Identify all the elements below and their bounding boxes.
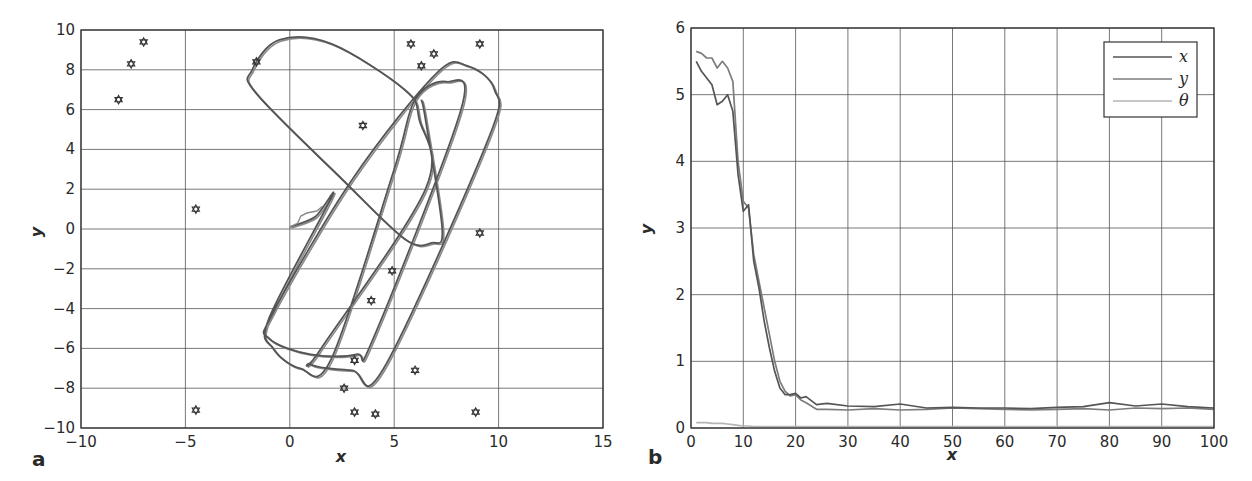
legend: x y θ bbox=[1104, 42, 1197, 117]
landmark-star-icon bbox=[192, 406, 199, 414]
landmark-star-icon bbox=[359, 121, 366, 129]
x-tick-label: 90 bbox=[1152, 433, 1171, 451]
landmark-star-icon bbox=[476, 229, 483, 237]
trajectory-paths bbox=[247, 37, 501, 387]
x-tick-label: 5 bbox=[389, 433, 399, 451]
x-axis-label: x bbox=[946, 445, 958, 464]
y-tick-label: 10 bbox=[56, 21, 75, 39]
x-tick-labels: 0102030405060708090100 bbox=[686, 433, 1228, 451]
y-tick-label: 2 bbox=[65, 180, 75, 198]
landmark-star-icon bbox=[418, 62, 425, 70]
y-tick-labels: 1086420−2−4−6−8−10 bbox=[43, 21, 75, 437]
panel-label-a: a bbox=[32, 447, 46, 471]
x-tick-label: 10 bbox=[489, 433, 508, 451]
y-tick-label: 5 bbox=[675, 86, 685, 104]
y-tick-label: 8 bbox=[65, 61, 75, 79]
y-tick-label: 1 bbox=[675, 352, 685, 370]
landmark-star-icon bbox=[411, 366, 418, 374]
x-tick-label: 10 bbox=[734, 433, 753, 451]
landmark-star-icon bbox=[127, 60, 134, 68]
y-tick-label: −6 bbox=[53, 339, 75, 357]
y-tick-label: 4 bbox=[675, 152, 685, 170]
x-tick-label: 100 bbox=[1200, 433, 1229, 451]
landmark-star-icon bbox=[140, 38, 147, 46]
legend-label-theta: θ bbox=[1179, 91, 1189, 110]
landmark-star-icon bbox=[351, 408, 358, 416]
y-axis-label: y bbox=[27, 226, 46, 237]
landmark-star-icon bbox=[372, 410, 379, 418]
series-line-theta bbox=[696, 423, 1214, 427]
x-tick-label: 60 bbox=[995, 433, 1014, 451]
y-tick-label: 4 bbox=[65, 140, 75, 158]
true-trajectory bbox=[247, 37, 499, 386]
landmark-star-icon bbox=[430, 50, 437, 58]
landmark-star-icon bbox=[192, 205, 199, 213]
landmark-markers bbox=[115, 38, 483, 419]
grid-lines bbox=[81, 30, 603, 428]
x-tick-label: 15 bbox=[593, 433, 612, 451]
y-tick-label: 6 bbox=[65, 101, 75, 119]
x-tick-label: 30 bbox=[838, 433, 857, 451]
legend-label-x: x bbox=[1179, 47, 1188, 66]
panel-label-b: b bbox=[648, 445, 662, 469]
landmark-star-icon bbox=[368, 296, 375, 304]
y-tick-label: 0 bbox=[65, 220, 75, 238]
figure-canvas: −10−5051015 1086420−2−4−6−8−10 x y a 010… bbox=[0, 0, 1252, 481]
landmark-star-icon bbox=[407, 40, 414, 48]
x-tick-label: 40 bbox=[891, 433, 910, 451]
x-tick-label: 20 bbox=[786, 433, 805, 451]
x-tick-label: 0 bbox=[285, 433, 295, 451]
y-tick-label: 0 bbox=[675, 419, 685, 437]
y-tick-label: −2 bbox=[53, 260, 75, 278]
x-tick-label: 80 bbox=[1100, 433, 1119, 451]
y-tick-label: 6 bbox=[675, 19, 685, 37]
y-axis-label: y bbox=[637, 223, 656, 234]
legend-label-y: y bbox=[1178, 69, 1189, 88]
landmark-star-icon bbox=[115, 95, 122, 103]
y-tick-label: 2 bbox=[675, 286, 685, 304]
trajectory-plot: −10−5051015 1086420−2−4−6−8−10 x y a bbox=[27, 21, 613, 471]
y-tick-label: −10 bbox=[43, 419, 75, 437]
y-tick-label: −8 bbox=[53, 379, 75, 397]
landmark-star-icon bbox=[388, 267, 395, 275]
y-tick-label: −4 bbox=[53, 300, 75, 318]
y-tick-labels: 6543210 bbox=[675, 19, 685, 437]
landmark-star-icon bbox=[472, 408, 479, 416]
x-tick-label: 0 bbox=[686, 433, 696, 451]
y-tick-label: 3 bbox=[675, 219, 685, 237]
x-tick-label: 70 bbox=[1048, 433, 1067, 451]
x-tick-label: −5 bbox=[174, 433, 196, 451]
error-plot: 0102030405060708090100 6543210 x y b x y… bbox=[637, 19, 1228, 469]
landmark-star-icon bbox=[476, 40, 483, 48]
x-axis-label: x bbox=[335, 447, 347, 466]
